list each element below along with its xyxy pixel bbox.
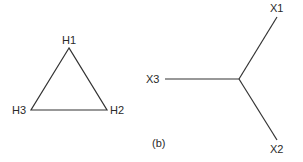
edge-x1 <box>239 17 277 79</box>
diagram-canvas: H1 H2 H3 X1 X2 X3 (b) <box>0 0 303 162</box>
node-label-x3: X3 <box>146 73 159 85</box>
node-label-x2: X2 <box>270 143 283 155</box>
node-label-x1: X1 <box>270 2 283 14</box>
node-label-h3: H3 <box>12 104 26 116</box>
triangle-edges <box>31 48 107 110</box>
figure-caption: (b) <box>152 137 165 149</box>
triangle-graph: H1 H2 H3 <box>12 34 124 116</box>
node-label-h2: H2 <box>110 104 124 116</box>
star-graph: X1 X2 X3 <box>146 2 283 155</box>
node-label-h1: H1 <box>62 34 76 46</box>
edge-x2 <box>239 79 277 140</box>
